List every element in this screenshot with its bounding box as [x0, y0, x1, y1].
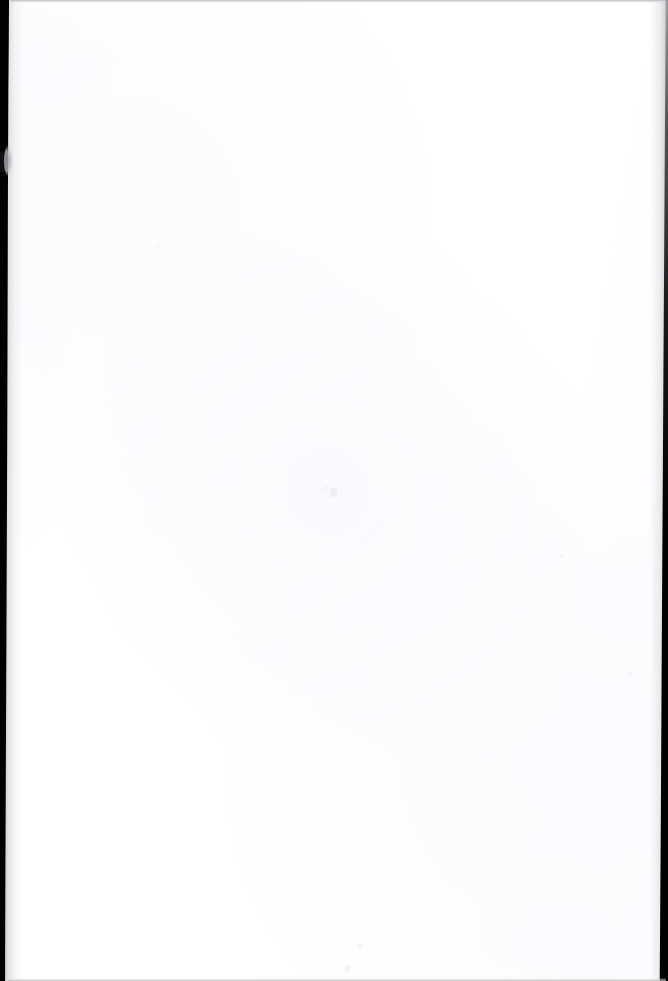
- top-edge-rule: [10, 0, 666, 3]
- page-paper-surface: [0, 0, 668, 981]
- scanned-page: This page is blank — no text, figures, t…: [0, 0, 668, 981]
